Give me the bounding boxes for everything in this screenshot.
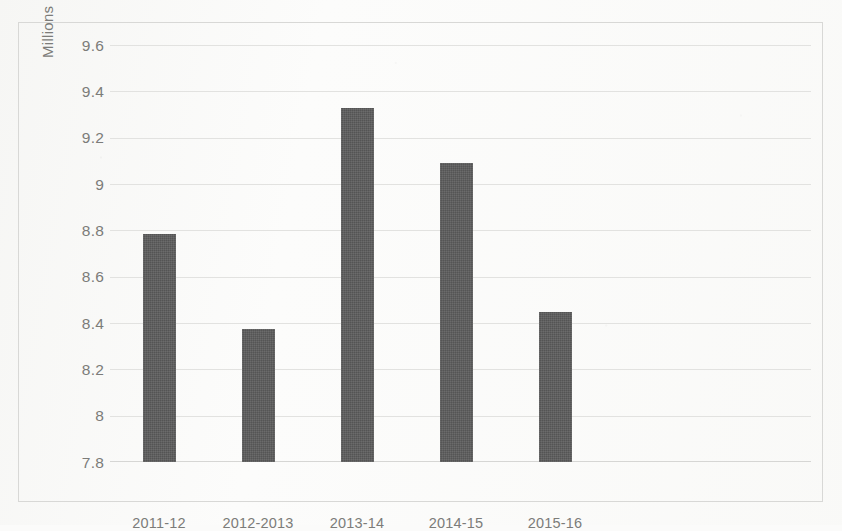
y-axis-tick-label: 9.6 — [52, 37, 104, 55]
bar-2012-2013 — [242, 329, 275, 462]
bar-2014-15 — [440, 163, 473, 462]
gridline — [110, 91, 811, 92]
bar-2011-12 — [143, 234, 176, 462]
bar-2013-14 — [341, 108, 374, 462]
y-axis-tick-label: 8.2 — [52, 361, 104, 379]
y-axis-tick-label: 8.4 — [52, 315, 104, 333]
gridline — [110, 138, 811, 139]
gridline — [110, 45, 811, 46]
plot-area: 2011-12 2012-2013 2013-14 2014-15 2015-1… — [110, 45, 811, 462]
y-axis-tick-label: 7.8 — [52, 454, 104, 472]
bar-2015-16 — [539, 312, 572, 462]
y-axis-tick-label: 8.8 — [52, 222, 104, 240]
y-axis-tick-label: 8 — [52, 407, 104, 425]
x-axis-tick-label: 2015-16 — [490, 515, 620, 531]
y-axis-tick-label: 9.2 — [52, 129, 104, 147]
y-axis-tick-label: 8.6 — [52, 268, 104, 286]
y-axis-tick-label: 9.4 — [52, 83, 104, 101]
y-axis-tick-label: 9 — [52, 176, 104, 194]
